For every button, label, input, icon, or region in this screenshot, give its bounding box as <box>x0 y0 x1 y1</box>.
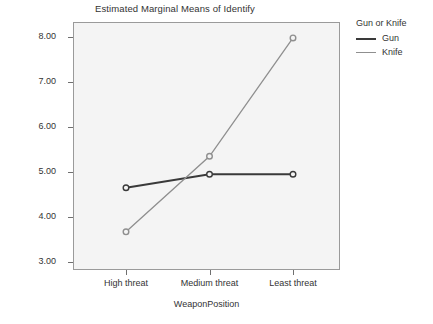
legend-title: Gun or Knife <box>356 18 433 28</box>
data-point-gun <box>207 171 213 177</box>
legend-swatch-knife <box>356 52 376 53</box>
plot-area <box>73 22 340 270</box>
legend-swatch-gun <box>356 38 376 40</box>
x-tick-label: Least threat <box>243 278 343 288</box>
series-line-knife <box>126 38 293 232</box>
y-tick-label: 8.00 <box>12 32 56 41</box>
data-point-gun <box>290 171 296 177</box>
legend-label: Gun <box>382 34 399 43</box>
legend-label: Knife <box>382 48 403 57</box>
data-point-knife <box>290 35 296 41</box>
x-tick-mark <box>126 270 127 275</box>
y-tick-label: 4.00 <box>12 212 56 221</box>
legend-item-knife[interactable]: Knife <box>356 48 433 57</box>
y-tick-label: 7.00 <box>12 77 56 86</box>
chart-container: Estimated Marginal Means of Identify Est… <box>0 0 433 324</box>
plot-lines <box>74 23 339 269</box>
legend: Gun or Knife GunKnife <box>356 18 433 62</box>
data-point-gun <box>123 185 129 191</box>
x-tick-mark <box>210 270 211 275</box>
data-point-knife <box>207 153 213 159</box>
x-tick-mark <box>293 270 294 275</box>
y-tick-label: 6.00 <box>12 122 56 131</box>
legend-items: GunKnife <box>356 34 433 57</box>
data-point-knife <box>123 229 129 235</box>
chart-title: Estimated Marginal Means of Identify <box>0 3 350 14</box>
legend-item-gun[interactable]: Gun <box>356 34 433 43</box>
y-tick-label: 5.00 <box>12 167 56 176</box>
y-tick-label: 3.00 <box>12 257 56 266</box>
x-axis-title: WeaponPosition <box>73 299 340 309</box>
